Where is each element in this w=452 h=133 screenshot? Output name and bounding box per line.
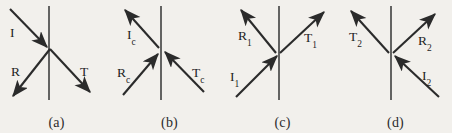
label-subscript: 2 [427, 78, 432, 88]
label-text: I [230, 69, 235, 84]
label-text: I [127, 27, 132, 42]
incident-arrow [10, 9, 47, 47]
label-reflected-b: Rc [117, 66, 130, 80]
label-transmitted-a: T [80, 65, 88, 79]
label-reflected-d: R2 [418, 34, 432, 48]
panel-c-graphics [226, 0, 339, 113]
panel-b: Ic Rc Tc (b) [113, 0, 226, 133]
label-transmitted-b: Tc [192, 66, 204, 80]
panel-b-graphics [113, 0, 226, 113]
label-incident-a: I [10, 26, 15, 40]
caption-b: (b) [113, 115, 226, 131]
panel-d-graphics [339, 0, 452, 113]
label-text: R [418, 33, 427, 48]
figure-container: I R T (a) Ic Rc Tc (b) R1 T1 I1 (c) [0, 0, 452, 133]
panel-d: T2 R2 I2 (d) [339, 0, 452, 133]
label-text: R [238, 28, 247, 43]
label-text: I [422, 68, 427, 83]
caption-a: (a) [0, 115, 113, 131]
label-incident-b: Ic [127, 28, 136, 42]
panel-a: I R T (a) [0, 0, 113, 133]
label-text: I [10, 25, 15, 40]
label-subscript: 1 [247, 38, 252, 48]
label-incident-d: I2 [422, 69, 431, 83]
incident-1-arrow [236, 56, 277, 97]
label-reflected-a: R [11, 65, 20, 79]
label-incident-c: I1 [230, 70, 239, 84]
label-transmitted-c: T1 [304, 31, 317, 45]
label-subscript: 2 [357, 39, 362, 49]
panel-a-graphics [0, 0, 113, 113]
label-text: T [304, 30, 312, 45]
label-subscript: c [200, 75, 204, 85]
incident-2-arrow [395, 56, 439, 97]
label-subscript: c [126, 75, 130, 85]
label-subscript: 1 [235, 79, 240, 89]
label-text: R [117, 65, 126, 80]
label-text: R [11, 64, 20, 79]
label-transmitted-d: T2 [349, 30, 362, 44]
caption-d: (d) [339, 115, 452, 131]
transmitted-1-arrow [280, 12, 324, 53]
label-text: T [80, 64, 88, 79]
label-text: T [349, 29, 357, 44]
label-subscript: c [132, 37, 136, 47]
label-reflected-c: R1 [238, 29, 252, 43]
panel-c: R1 T1 I1 (c) [226, 0, 339, 133]
label-subscript: 1 [312, 40, 317, 50]
label-subscript: 2 [427, 43, 432, 53]
caption-c: (c) [226, 115, 339, 131]
label-text: T [192, 65, 200, 80]
